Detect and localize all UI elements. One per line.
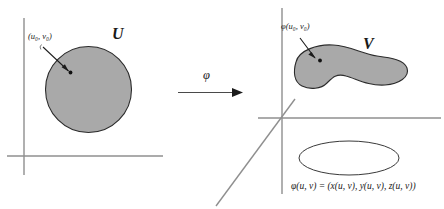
mapping-arrow-graphic	[178, 88, 243, 97]
image-region-v	[294, 45, 407, 89]
parametrization-equation: φ(u, v) = (x(u, v), y(u, v), z(u, v))	[291, 182, 416, 192]
projection-ellipse	[299, 141, 399, 175]
domain-label-u: U	[112, 26, 124, 42]
diagram-canvas	[0, 0, 444, 209]
right-diagonal-axis	[216, 99, 295, 206]
left-marked-dot	[69, 71, 73, 75]
domain-region-u	[46, 47, 132, 133]
right-marked-dot	[318, 59, 322, 63]
image-label-v: V	[363, 36, 374, 52]
right-axes	[216, 8, 441, 206]
right-point-label: φ(u₀, v₀)	[281, 22, 310, 31]
math-diagram-figure: (u₀, v₀) U φ φ(u₀, v₀) V φ(u, v) = (x(u,…	[0, 0, 444, 209]
left-point-label: (u₀, v₀)	[28, 32, 52, 41]
mapping-symbol-label: φ	[203, 69, 210, 82]
